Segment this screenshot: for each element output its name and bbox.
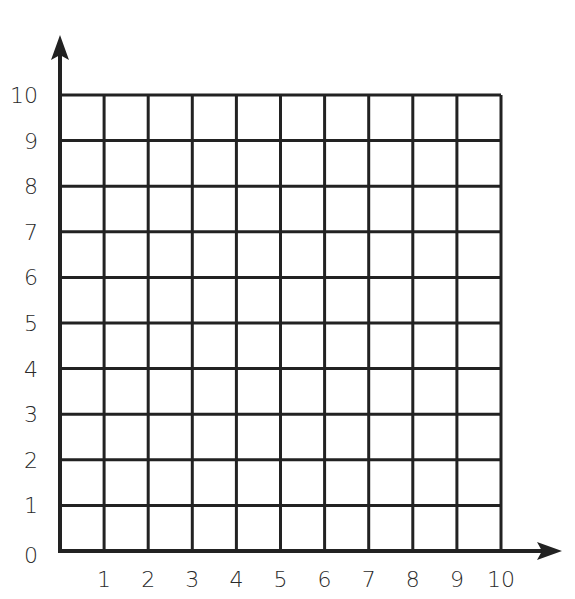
y-tick-label: 2 bbox=[24, 448, 38, 473]
y-tick-label: 10 bbox=[10, 83, 38, 108]
x-axis-labels: 12345678910 bbox=[97, 567, 515, 592]
x-tick-label: 2 bbox=[141, 567, 155, 592]
y-tick-label: 4 bbox=[24, 357, 38, 382]
y-tick-label: 5 bbox=[24, 311, 38, 336]
x-tick-label: 9 bbox=[450, 567, 464, 592]
y-tick-label: 8 bbox=[24, 174, 38, 199]
y-tick-label: 3 bbox=[24, 402, 38, 427]
x-tick-label: 7 bbox=[362, 567, 376, 592]
y-tick-label: 1 bbox=[24, 493, 38, 518]
x-tick-label: 10 bbox=[487, 567, 515, 592]
x-tick-label: 5 bbox=[274, 567, 288, 592]
axes bbox=[51, 35, 562, 560]
x-tick-label: 6 bbox=[318, 567, 332, 592]
grid-lines bbox=[60, 95, 501, 551]
x-tick-label: 8 bbox=[406, 567, 420, 592]
y-tick-label: 0 bbox=[24, 543, 38, 568]
coordinate-grid: 012345678910 12345678910 bbox=[0, 0, 575, 599]
y-tick-label: 9 bbox=[24, 129, 38, 154]
x-tick-label: 1 bbox=[97, 567, 111, 592]
y-tick-label: 7 bbox=[24, 220, 38, 245]
y-axis-labels: 012345678910 bbox=[10, 83, 38, 568]
x-tick-label: 4 bbox=[229, 567, 243, 592]
x-tick-label: 3 bbox=[185, 567, 199, 592]
y-tick-label: 6 bbox=[24, 265, 38, 290]
